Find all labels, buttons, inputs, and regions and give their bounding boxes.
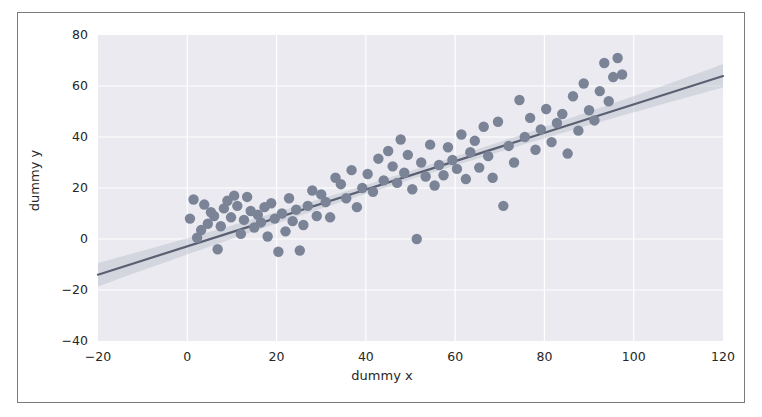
figure-frame: −40−20020406080 −20020406080100120 dummy…: [17, 12, 745, 403]
scatter-point: [504, 141, 514, 151]
scatter-point: [216, 221, 226, 231]
scatter-point: [509, 157, 519, 167]
x-tick-label: 60: [425, 349, 485, 364]
scatter-point: [520, 132, 530, 142]
scatter-point: [298, 220, 308, 230]
scatter-point: [474, 162, 484, 172]
scatter-point: [395, 134, 405, 144]
scatter-point: [546, 137, 556, 147]
scatter-point: [557, 109, 567, 119]
y-tick-label: −40: [38, 333, 88, 348]
y-tick-label: 40: [38, 129, 88, 144]
regression-plot: [18, 13, 746, 404]
scatter-point: [461, 174, 471, 184]
scatter-point: [530, 145, 540, 155]
scatter-point: [483, 151, 493, 161]
scatter-point: [312, 211, 322, 221]
scatter-point: [229, 190, 239, 200]
scatter-point: [226, 212, 236, 222]
scatter-point: [420, 171, 430, 181]
scatter-point: [584, 105, 594, 115]
scatter-point: [470, 136, 480, 146]
scatter-point: [525, 113, 535, 123]
scatter-point: [612, 53, 622, 63]
scatter-point: [325, 212, 335, 222]
scatter-point: [617, 69, 627, 79]
scatter-point: [239, 215, 249, 225]
scatter-point: [280, 226, 290, 236]
scatter-point: [209, 211, 219, 221]
x-tick-label: 100: [604, 349, 664, 364]
scatter-point: [465, 147, 475, 157]
scatter-point: [242, 192, 252, 202]
scatter-point: [387, 161, 397, 171]
scatter-point: [362, 169, 372, 179]
scatter-point: [456, 129, 466, 139]
scatter-point: [443, 142, 453, 152]
scatter-point: [452, 164, 462, 174]
scatter-point: [493, 117, 503, 127]
scatter-point: [185, 213, 195, 223]
scatter-point: [212, 244, 222, 254]
scatter-point: [383, 146, 393, 156]
scatter-point: [295, 245, 305, 255]
y-tick-label: 60: [38, 78, 88, 93]
scatter-point: [307, 185, 317, 195]
scatter-point: [232, 201, 242, 211]
scatter-point: [562, 148, 572, 158]
scatter-point: [379, 175, 389, 185]
scatter-point: [541, 104, 551, 114]
scatter-point: [573, 125, 583, 135]
scatter-point: [608, 72, 618, 82]
x-tick-label: −20: [68, 349, 128, 364]
scatter-point: [357, 183, 367, 193]
scatter-point: [447, 155, 457, 165]
scatter-point: [403, 150, 413, 160]
y-axis-title: dummy y: [27, 121, 42, 241]
scatter-point: [399, 168, 409, 178]
scatter-point: [287, 216, 297, 226]
scatter-point: [536, 124, 546, 134]
scatter-point: [284, 193, 294, 203]
scatter-point: [407, 184, 417, 194]
x-tick-label: 120: [693, 349, 753, 364]
scatter-point: [412, 234, 422, 244]
scatter-point: [416, 157, 426, 167]
scatter-point: [262, 231, 272, 241]
scatter-point: [303, 201, 313, 211]
scatter-point: [595, 86, 605, 96]
scatter-point: [368, 187, 378, 197]
x-tick-label: 80: [514, 349, 574, 364]
scatter-point: [487, 173, 497, 183]
scatter-point: [392, 178, 402, 188]
scatter-point: [188, 194, 198, 204]
scatter-point: [266, 198, 276, 208]
scatter-point: [425, 139, 435, 149]
y-tick-label: 80: [38, 27, 88, 42]
scatter-point: [429, 180, 439, 190]
scatter-point: [236, 229, 246, 239]
scatter-point: [373, 153, 383, 163]
y-tick-label: −20: [38, 282, 88, 297]
scatter-point: [336, 179, 346, 189]
scatter-point: [438, 170, 448, 180]
scatter-point: [341, 193, 351, 203]
scatter-point: [291, 204, 301, 214]
scatter-point: [568, 91, 578, 101]
scatter-point: [273, 247, 283, 257]
scatter-point: [352, 202, 362, 212]
scatter-point: [498, 201, 508, 211]
scatter-point: [434, 160, 444, 170]
x-tick-label: 20: [247, 349, 307, 364]
scatter-point: [589, 115, 599, 125]
x-tick-label: 40: [336, 349, 396, 364]
scatter-point: [599, 58, 609, 68]
scatter-point: [320, 197, 330, 207]
scatter-point: [514, 95, 524, 105]
scatter-point: [552, 118, 562, 128]
x-axis-title: dummy x: [18, 368, 746, 383]
scatter-point: [479, 122, 489, 132]
y-tick-label: 20: [38, 180, 88, 195]
scatter-point: [604, 96, 614, 106]
scatter-point: [256, 217, 266, 227]
